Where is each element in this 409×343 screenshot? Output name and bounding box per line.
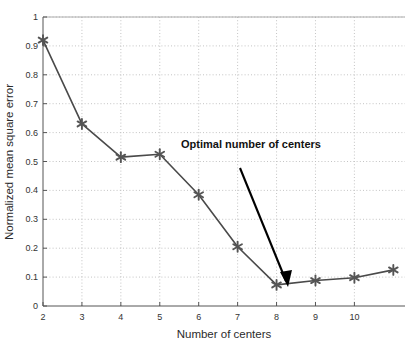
y-tick-label: 0: [33, 301, 38, 311]
x-tick-label: 2: [40, 312, 45, 322]
annotation-label: Optimal number of centers: [181, 138, 321, 150]
chart-figure: 2345678910 00.10.20.30.40.50.60.70.80.91…: [0, 0, 409, 343]
x-tick-label: 8: [274, 312, 279, 322]
y-tick-label: 0.1: [25, 272, 38, 282]
chart-background: [0, 0, 409, 343]
y-tick-label: 0.7: [25, 99, 38, 109]
y-tick-label: 0.5: [25, 157, 38, 167]
x-axis-title: Number of centers: [177, 328, 272, 340]
x-tick-label: 9: [313, 312, 318, 322]
y-tick-label: 0.3: [25, 214, 38, 224]
x-tick-label: 3: [79, 312, 84, 322]
y-tick-label: 0.4: [25, 185, 38, 195]
y-tick-label: 0.9: [25, 41, 38, 51]
x-tick-label: 5: [157, 312, 162, 322]
x-tick-label: 7: [235, 312, 240, 322]
x-tick-label: 4: [118, 312, 123, 322]
line-chart-svg: 2345678910 00.10.20.30.40.50.60.70.80.91…: [0, 0, 409, 343]
x-tick-label: 10: [349, 312, 359, 322]
y-tick-label: 0.8: [25, 70, 38, 80]
x-tick-label: 6: [196, 312, 201, 322]
y-tick-label: 0.2: [25, 243, 38, 253]
y-tick-label: 0.6: [25, 128, 38, 138]
y-axis-title: Normalized mean square error: [3, 84, 15, 240]
y-tick-label: 1: [33, 12, 38, 22]
